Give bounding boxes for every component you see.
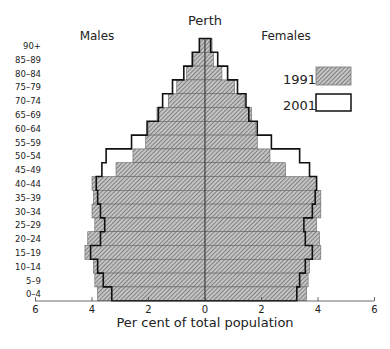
bar-1991-male <box>133 149 205 163</box>
bar-1991-male <box>146 135 205 149</box>
age-labels: 90+85–8980–8475–7970–7465–6960–6455–5950… <box>15 41 41 299</box>
bar-1991-male <box>199 39 205 53</box>
bar-1991-male <box>88 232 205 246</box>
bar-1991-male <box>157 108 205 122</box>
x-tick-label: 4 <box>315 304 321 315</box>
bar-1991-male <box>116 163 205 177</box>
bar-1991-male <box>95 273 205 287</box>
bar-1991-female <box>205 232 319 246</box>
bar-1991-male <box>98 287 205 301</box>
age-label: 80–84 <box>15 69 41 79</box>
bar-1991-female <box>205 163 286 177</box>
x-axis-label: Per cent of total population <box>116 315 293 330</box>
age-label: 40–44 <box>15 179 41 189</box>
age-label: 75–79 <box>15 82 41 92</box>
age-label: 50–54 <box>15 151 41 161</box>
x-tick-label: 2 <box>145 304 151 315</box>
age-label: 70–74 <box>15 96 41 106</box>
bar-1991-female <box>205 204 321 218</box>
bar-1991-female <box>205 66 222 80</box>
age-label: 0–4 <box>26 289 41 299</box>
chart-title: Perth <box>188 13 222 28</box>
bar-1991-male <box>93 190 205 204</box>
males-label: Males <box>80 29 115 43</box>
bar-1991-female <box>205 190 321 204</box>
bar-1991-female <box>205 80 235 94</box>
x-tick-label: 6 <box>32 304 38 315</box>
legend-swatch-outline <box>316 94 351 111</box>
bar-1991-female <box>205 287 307 301</box>
bar-1991-female <box>205 108 252 122</box>
bar-1991-female <box>205 149 270 163</box>
bar-1991-male <box>168 94 205 108</box>
age-label: 90+ <box>23 41 41 51</box>
x-tick-label: 0 <box>202 304 208 315</box>
bar-1991-male <box>92 177 205 191</box>
bar-1991-female <box>205 121 256 135</box>
x-axis: 6420246 <box>32 297 377 315</box>
legend-label-1991: 1991 <box>283 72 316 87</box>
x-tick-label: 6 <box>371 304 377 315</box>
age-label: 60–64 <box>15 124 41 134</box>
bar-1991-male <box>149 121 206 135</box>
x-ticks: 6420246 <box>32 297 377 315</box>
bar-1991-female <box>205 52 213 66</box>
bar-1991-male <box>187 66 205 80</box>
bar-1991-male <box>194 52 205 66</box>
age-label: 35–39 <box>15 193 41 203</box>
bar-1991-female <box>205 218 317 232</box>
bar-1991-male <box>92 204 205 218</box>
x-tick-label: 4 <box>89 304 95 315</box>
bar-1991-male <box>177 80 205 94</box>
bar-1991-male <box>85 246 205 260</box>
x-tick-label: 2 <box>258 304 264 315</box>
age-label: 25–29 <box>15 220 41 230</box>
bar-1991-female <box>205 177 317 191</box>
legend-label-2001: 2001 <box>283 98 316 113</box>
age-label: 30–34 <box>15 207 41 217</box>
females-label: Females <box>261 29 311 43</box>
legend: 1991 2001 <box>283 67 351 113</box>
bar-1991-female <box>205 246 321 260</box>
age-label: 5–9 <box>26 276 41 286</box>
bar-1991-female <box>205 94 245 108</box>
age-label: 85–89 <box>15 55 41 65</box>
bar-1991-female <box>205 135 257 149</box>
population-pyramid-chart: Perth Males Females 90+85–8980–8475–7970… <box>0 0 390 349</box>
bar-1991-male <box>93 259 205 273</box>
age-label: 15–19 <box>15 248 41 258</box>
bar-1991-male <box>95 218 205 232</box>
age-label: 45–49 <box>15 165 41 175</box>
age-label: 65–69 <box>15 110 41 120</box>
bar-1991-female <box>205 259 310 273</box>
legend-swatch-hatched <box>316 67 351 85</box>
bar-1991-female <box>205 273 308 287</box>
age-label: 20–24 <box>15 234 41 244</box>
age-label: 55–59 <box>15 138 41 148</box>
age-label: 10–14 <box>15 262 41 272</box>
